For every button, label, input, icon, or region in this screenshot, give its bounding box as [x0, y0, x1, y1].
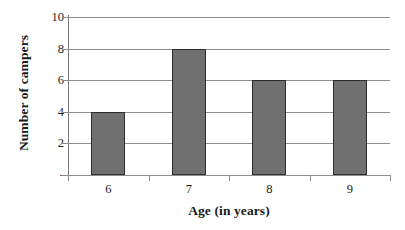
x-axis-tick-label: 6	[78, 183, 138, 196]
bar	[252, 80, 286, 175]
bar-chart-figure: Number of campers -246810 6789 Age (in y…	[0, 0, 405, 230]
gridline	[68, 17, 390, 18]
plot-area	[68, 17, 390, 175]
x-axis-tick-label: 8	[239, 183, 299, 196]
y-axis-tickmark	[62, 80, 69, 81]
y-axis-tick-label: 8	[34, 43, 64, 56]
x-axis-tickmark	[149, 175, 150, 181]
y-axis-tickmark	[62, 17, 69, 18]
bar	[333, 80, 367, 175]
bar	[91, 112, 125, 175]
y-axis-tick-label: -	[34, 169, 64, 182]
y-axis-tickmark	[62, 49, 69, 50]
bar	[172, 49, 206, 175]
y-axis-tick-label: 6	[34, 74, 64, 87]
x-axis-tickmark	[229, 175, 230, 181]
y-axis-tick-labels: -246810	[32, 0, 64, 230]
gridline	[68, 49, 390, 50]
y-axis-tick-label: 4	[34, 106, 64, 119]
x-axis-tick-label: 7	[159, 183, 219, 196]
y-axis-tickmark	[62, 143, 69, 144]
y-axis-tickmark	[62, 112, 69, 113]
x-axis-tick-labels: 6789	[68, 183, 390, 203]
x-axis-title: Age (in years)	[68, 203, 390, 219]
x-axis-tickmark	[68, 175, 69, 181]
y-axis-tick-label: 2	[34, 137, 64, 150]
x-axis-tick-label: 9	[320, 183, 380, 196]
x-axis-tickmark	[390, 175, 391, 181]
y-axis-tick-label: 10	[34, 11, 64, 24]
x-axis-tickmark	[310, 175, 311, 181]
